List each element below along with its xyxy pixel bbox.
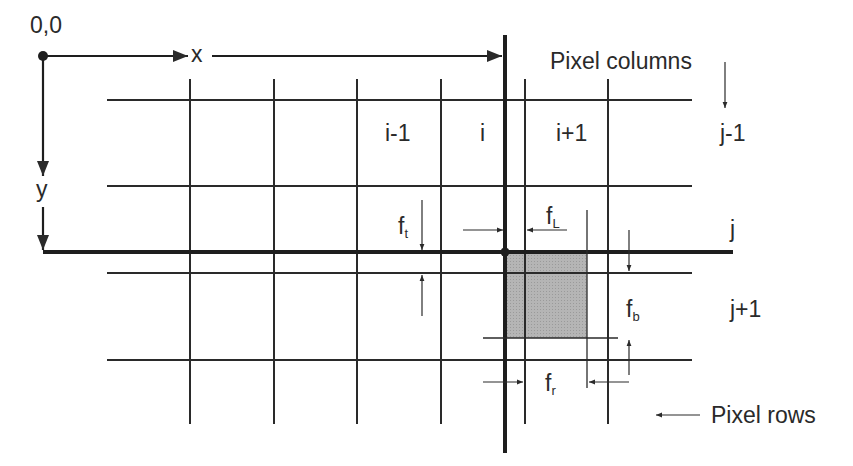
column-label-i-plus-1: i+1 [556,122,587,145]
column-label-i: i [480,122,485,145]
row-label-j-plus-1: j+1 [730,298,761,321]
column-label-i-minus-1: i-1 [385,122,411,145]
offset-label-fr: fr [545,372,556,397]
x-axis-label: x [191,43,203,66]
intersection-dot [501,248,510,257]
offset-label-fb: fb [626,298,640,323]
pixel-rows-label: Pixel rows [711,404,816,427]
y-axis-label: y [36,178,48,201]
row-label-j: j [730,218,735,241]
pixel-grid-diagram: 0,0 x y i-1 i i+1 j-1 j j+1 Pixel column… [0,0,853,466]
row-label-j-minus-1: j-1 [720,122,746,145]
origin-label: 0,0 [30,14,62,37]
offset-label-ft: ft [398,215,408,240]
grid-drawing [0,0,853,466]
shaded-pixel [505,252,587,338]
origin-dot [38,51,48,61]
offset-label-fl: fL [546,205,560,230]
pixel-columns-label: Pixel columns [550,50,692,73]
